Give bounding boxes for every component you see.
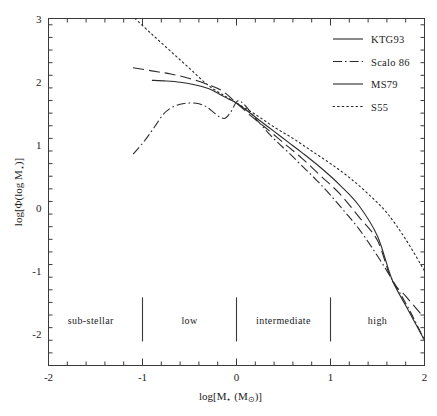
axis-titles: log[M⋆ (M⊙)]log[Φ(log M⋆)] bbox=[12, 158, 262, 404]
y-axis-title: log[Φ(log M⋆)] bbox=[12, 158, 27, 226]
x-tick-label: -1 bbox=[138, 371, 147, 383]
legend-label-ktg93: KTG93 bbox=[371, 34, 405, 45]
category-labels: sub-stellarlowintermediatehigh bbox=[68, 315, 387, 326]
y-tick-label: 0 bbox=[36, 202, 42, 214]
category-label: sub-stellar bbox=[68, 315, 114, 326]
y-tick-label: 2 bbox=[36, 76, 42, 88]
category-label: high bbox=[368, 315, 387, 326]
series-line-scalo-86 bbox=[133, 101, 424, 341]
series-line-ms79 bbox=[152, 80, 425, 340]
y-axis-tick-labels: -2-10123 bbox=[32, 13, 42, 340]
legend-label-scalo-86: Scalo 86 bbox=[371, 57, 410, 68]
legend-label-ms79: MS79 bbox=[371, 79, 398, 90]
x-tick-label: -2 bbox=[44, 371, 53, 383]
chart-plot: -2-1012 -2-10123 sub-stellarlowintermedi… bbox=[0, 0, 437, 416]
x-tick-label: 2 bbox=[422, 371, 428, 383]
x-axis-tick-labels: -2-1012 bbox=[44, 371, 427, 383]
x-tick-label: 1 bbox=[328, 371, 334, 383]
y-tick-label: 3 bbox=[36, 13, 42, 25]
y-tick-label: -1 bbox=[32, 265, 41, 277]
figure-canvas: -2-1012 -2-10123 sub-stellarlowintermedi… bbox=[0, 0, 437, 416]
x-tick-label: 0 bbox=[234, 371, 240, 383]
x-axis-title: log[M⋆ (M⊙)] bbox=[199, 390, 262, 405]
y-tick-label: -2 bbox=[32, 328, 41, 340]
legend-label-s55: S55 bbox=[371, 102, 388, 113]
category-label: low bbox=[181, 315, 198, 326]
y-tick-label: 1 bbox=[36, 139, 42, 151]
legend: KTG93Scalo 86MS79S55 bbox=[333, 34, 410, 113]
category-label: intermediate bbox=[256, 315, 311, 326]
